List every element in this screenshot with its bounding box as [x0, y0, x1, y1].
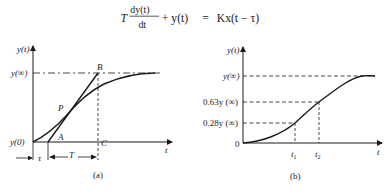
equation-rhs: Kx(t − τ) [217, 12, 260, 25]
response-curve [33, 73, 155, 142]
response-curve [243, 76, 375, 143]
y-inf-label: y(∞) [10, 68, 27, 78]
caption-b: (b) [290, 171, 301, 181]
y-axis-label: y(t) [226, 45, 240, 55]
t2-label: t2 [315, 149, 321, 160]
T-label: T [69, 150, 75, 160]
x-axis-label: t [377, 147, 380, 157]
chart-a: y(t) y(∞) y(0) B P A C t τ T (a) [0, 0, 200, 195]
y0-label: y(0) [9, 137, 25, 147]
point-B-label: B [97, 62, 103, 72]
t1-label: t1 [291, 149, 297, 160]
y028-label: 0.28y (∞) [203, 118, 238, 128]
tau-label: τ [38, 153, 42, 163]
caption-a: (a) [93, 170, 103, 180]
y063-label: 0.63y (∞) [203, 97, 238, 107]
equation-equals: = [202, 12, 209, 25]
y-axis-label: y(t) [16, 44, 30, 54]
x-axis-label: t [165, 145, 168, 155]
tangent-line [48, 73, 98, 142]
zero-label: 0 [235, 139, 240, 149]
point-C-label: C [101, 138, 108, 148]
point-P-label: P [57, 103, 64, 113]
y-inf-label: y(∞) [222, 71, 239, 81]
point-A-label: A [57, 132, 64, 142]
T-arrowhead-left [49, 155, 55, 160]
T-arrowhead-right [91, 155, 97, 160]
